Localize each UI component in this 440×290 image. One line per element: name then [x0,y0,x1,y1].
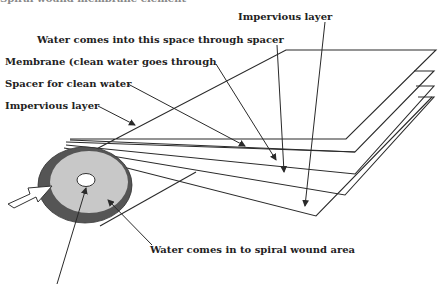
label-impervious-layer-top: Impervious layer [238,11,332,23]
label-water-through-spacer: Water comes into this space through spac… [37,34,284,46]
label-spacer-clean-water: Spacer for clean water [5,78,131,90]
center-permeate-tube [77,174,95,187]
roll-end [38,147,132,223]
label-impervious-layer-left: Impervious layer [5,100,99,112]
leader-impervious-left [98,106,135,125]
leader-water-spiral [108,200,152,245]
label-water-spiral-area: Water comes in to spiral wound area [150,244,355,256]
spiral-wound-membrane-diagram: Spiral wound membrane element [0,0,440,290]
label-membrane: Membrane (clean water goes through [5,56,216,68]
